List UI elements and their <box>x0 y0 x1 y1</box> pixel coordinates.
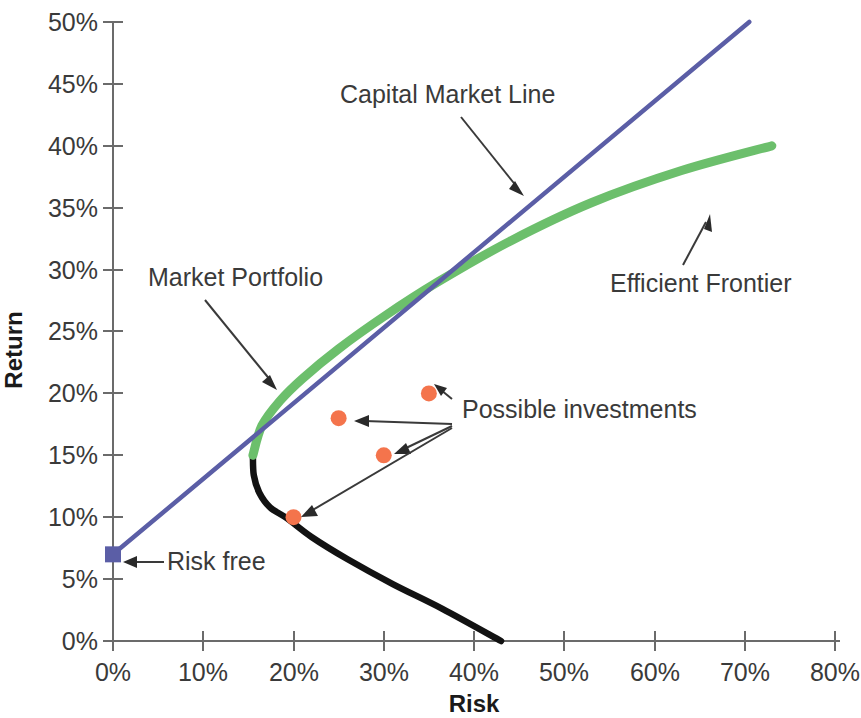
capm-chart: 0% 5% 10% 15% 20% 25% 30% 35% 40% 45% 50… <box>0 0 861 718</box>
annotation-label-capital-market-line: Capital Market Line <box>340 80 555 108</box>
y-tick-label-15: 15% <box>48 441 98 469</box>
y-tick-label-30: 30% <box>48 256 98 284</box>
annotation-market-portfolio: Market Portfolio <box>148 263 323 390</box>
x-tick-label-80: 80% <box>810 658 860 686</box>
annotation-possible-investments: Possible investments <box>301 384 697 517</box>
x-axis-title: Risk <box>449 690 500 717</box>
annotation-label-risk-free: Risk free <box>167 547 266 575</box>
x-tick-label-0: 0% <box>95 658 131 686</box>
y-tick-label-0: 0% <box>62 627 98 655</box>
annotation-efficient-frontier: Efficient Frontier <box>610 214 792 297</box>
y-axis-title: Return <box>0 311 27 388</box>
x-tick-label-30: 30% <box>359 658 409 686</box>
annotation-risk-free: Risk free <box>123 547 266 575</box>
chart-canvas: 0% 5% 10% 15% 20% 25% 30% 35% 40% 45% 50… <box>0 0 861 718</box>
y-tick-label-25: 25% <box>48 317 98 345</box>
annotation-capital-market-line: Capital Market Line <box>340 80 555 196</box>
annotation-label-market-portfolio: Market Portfolio <box>148 263 323 291</box>
x-tick-label-50: 50% <box>539 658 589 686</box>
y-tick-label-50: 50% <box>48 8 98 36</box>
annotation-label-efficient-frontier: Efficient Frontier <box>610 269 792 297</box>
x-tick-label-10: 10% <box>178 658 228 686</box>
y-tick-label-20: 20% <box>48 379 98 407</box>
y-tick-label-35: 35% <box>48 194 98 222</box>
risk-free-point <box>105 546 121 562</box>
annotation-label-possible-investments: Possible investments <box>462 395 697 423</box>
risk-free-marker <box>105 546 121 562</box>
inefficient-frontier-curve <box>253 455 501 641</box>
x-tick-label-40: 40% <box>449 658 499 686</box>
investment-point-2 <box>376 447 392 463</box>
y-tick-label-5: 5% <box>62 565 98 593</box>
x-tick-label-70: 70% <box>720 658 770 686</box>
y-tick-label-10: 10% <box>48 503 98 531</box>
x-tick-label-20: 20% <box>269 658 319 686</box>
investment-point-3 <box>286 509 302 525</box>
investment-point-1 <box>421 385 437 401</box>
y-tick-label-45: 45% <box>48 70 98 98</box>
investment-point-0 <box>331 410 347 426</box>
x-axis: 0% 10% 20% 30% 40% 50% 60% 70% 80% <box>95 631 860 686</box>
x-tick-label-60: 60% <box>630 658 680 686</box>
possible-investment-dots <box>286 385 437 525</box>
y-tick-label-40: 40% <box>48 132 98 160</box>
